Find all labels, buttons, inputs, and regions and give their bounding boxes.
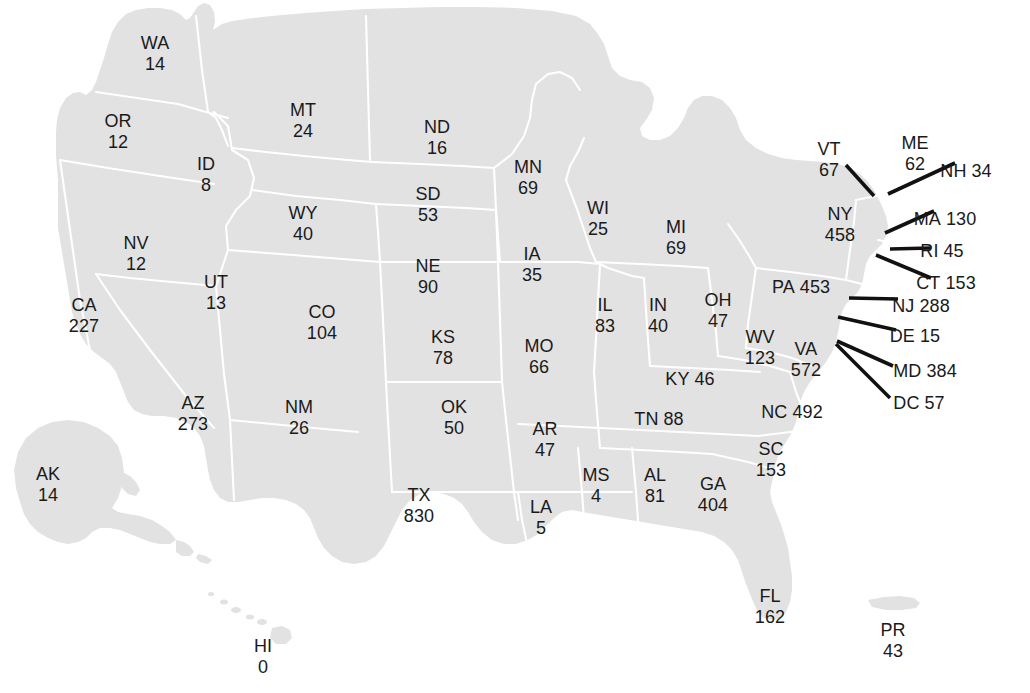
state-value: 15 — [920, 326, 940, 346]
landmass-group — [56, 3, 888, 620]
state-label-ok: OK50 — [441, 397, 467, 439]
state-abbr: CT — [916, 273, 940, 293]
state-abbr: KY — [665, 369, 689, 389]
state-value: 14 — [141, 54, 170, 75]
state-abbr: WY — [288, 203, 317, 224]
state-label-la: LA5 — [530, 497, 552, 539]
state-abbr: ND — [424, 117, 450, 138]
state-value: 8 — [197, 175, 215, 196]
state-value: 53 — [415, 205, 440, 226]
state-abbr: PA — [772, 277, 795, 297]
state-value: 153 — [945, 273, 975, 293]
state-label-me: ME62 — [901, 133, 928, 175]
state-value: 12 — [104, 132, 131, 153]
state-label-id: ID8 — [197, 154, 215, 196]
state-label-ar: AR47 — [532, 419, 557, 461]
state-abbr: WA — [141, 33, 170, 54]
state-value: 13 — [204, 293, 228, 314]
state-value: 123 — [745, 348, 775, 369]
state-abbr: WI — [587, 198, 609, 219]
state-value: 81 — [644, 486, 666, 507]
state-abbr: OK — [441, 397, 467, 418]
state-abbr: MN — [514, 157, 542, 178]
state-abbr: SD — [415, 184, 440, 205]
state-value: 66 — [524, 357, 553, 378]
state-abbr: GA — [698, 474, 728, 495]
callout-label-ri: RI45 — [920, 241, 963, 261]
state-abbr: NV — [123, 233, 148, 254]
state-value: 67 — [817, 160, 840, 181]
state-value: 227 — [69, 316, 99, 337]
callout-label-ct: CT153 — [916, 273, 976, 293]
state-label-sc: SC153 — [756, 439, 786, 481]
state-value: 453 — [800, 277, 830, 297]
state-label-il: IL83 — [595, 295, 615, 337]
state-label-mt: MT24 — [290, 100, 316, 142]
state-abbr: MS — [582, 465, 609, 486]
state-abbr: CA — [69, 295, 99, 316]
state-abbr: IL — [595, 295, 615, 316]
state-value: 273 — [178, 414, 208, 435]
state-value: 14 — [36, 485, 60, 506]
state-abbr: NH — [940, 161, 966, 181]
state-abbr: TX — [404, 485, 434, 506]
state-abbr: DC — [893, 393, 919, 413]
state-abbr: MI — [666, 217, 686, 238]
state-abbr: VT — [817, 139, 840, 160]
state-abbr: AL — [644, 465, 666, 486]
state-abbr: FL — [755, 586, 785, 607]
state-abbr: OH — [704, 290, 731, 311]
state-value: 16 — [424, 138, 450, 159]
state-abbr: MT — [290, 100, 316, 121]
state-value: 130 — [946, 209, 976, 229]
puerto-rico-landmass — [868, 596, 920, 610]
state-label-mi: MI69 — [666, 217, 686, 259]
state-abbr: DE — [890, 326, 915, 346]
state-value: 830 — [404, 506, 434, 527]
state-abbr: NJ — [892, 296, 914, 316]
state-value: 50 — [441, 418, 467, 439]
state-abbr: MA — [914, 209, 941, 229]
state-abbr: IN — [648, 295, 668, 316]
state-value: 25 — [587, 219, 609, 240]
callout-label-de: DE15 — [890, 326, 940, 346]
state-value: 162 — [755, 607, 785, 628]
state-label-ia: IA35 — [522, 244, 542, 286]
state-label-tn: TN88 — [634, 409, 683, 429]
state-label-nd: ND16 — [424, 117, 450, 159]
callout-label-dc: DC57 — [893, 393, 944, 413]
state-value: 0 — [254, 657, 272, 678]
alaska-panhandle — [122, 472, 140, 496]
state-label-hi: HI0 — [254, 636, 272, 678]
state-value: 57 — [924, 393, 944, 413]
state-label-ne: NE90 — [415, 256, 440, 298]
state-label-ga: GA404 — [698, 474, 728, 516]
state-label-co: CO104 — [307, 302, 337, 344]
state-value: 404 — [698, 495, 728, 516]
state-label-pa: PA453 — [772, 277, 830, 297]
callout-label-nh: NH34 — [940, 161, 991, 181]
state-label-nv: NV12 — [123, 233, 148, 275]
state-abbr: AK — [36, 464, 60, 485]
state-abbr: KS — [431, 327, 455, 348]
state-abbr: WV — [745, 327, 775, 348]
state-label-wa: WA14 — [141, 33, 170, 75]
state-value: 62 — [901, 154, 928, 175]
state-value: 78 — [431, 348, 455, 369]
state-label-ny: NY458 — [825, 204, 855, 246]
state-label-ky: KY46 — [665, 369, 714, 389]
state-label-mn: MN69 — [514, 157, 542, 199]
state-abbr: MO — [524, 336, 553, 357]
state-value: 5 — [530, 518, 552, 539]
state-label-ca: CA227 — [69, 295, 99, 337]
state-abbr: AZ — [178, 393, 208, 414]
state-label-in: IN40 — [648, 295, 668, 337]
state-value: 12 — [123, 254, 148, 275]
state-value: 26 — [285, 418, 313, 439]
state-abbr: NM — [285, 397, 313, 418]
state-abbr: CO — [307, 302, 337, 323]
state-abbr: RI — [920, 241, 938, 261]
state-label-ut: UT13 — [204, 272, 228, 314]
state-abbr: IA — [522, 244, 542, 265]
state-value: 35 — [522, 265, 542, 286]
